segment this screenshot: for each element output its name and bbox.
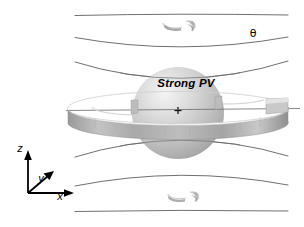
pv-anomaly-label: Strong PV bbox=[157, 78, 214, 90]
isentrope-theta-label: θ bbox=[250, 28, 257, 39]
small-vortex-bottom bbox=[168, 192, 199, 202]
small-vortex-top bbox=[163, 21, 195, 32]
figure-canvas: Strong PV θ z y x bbox=[0, 0, 304, 227]
axis-x-label: x bbox=[57, 191, 63, 202]
axis-z-label: z bbox=[17, 143, 23, 154]
schematic-svg bbox=[0, 0, 304, 227]
disk-inner-hole-right bbox=[222, 100, 264, 104]
axis-z-arrowhead bbox=[24, 150, 32, 160]
axis-y-label: y bbox=[38, 173, 44, 184]
axis-triad bbox=[24, 150, 74, 197]
disk-inner-hole-left bbox=[92, 107, 134, 115]
isentrope-line-6 bbox=[75, 210, 288, 211]
disk-inner-step-left bbox=[131, 100, 138, 114]
disk-inner-step-right bbox=[215, 96, 222, 110]
isentrope-line-5 bbox=[75, 175, 288, 186]
small-vortex-bottom-left-shadow bbox=[168, 196, 185, 203]
axis-x-arrowhead bbox=[64, 189, 74, 197]
isentrope-line-1 bbox=[75, 14, 288, 15]
